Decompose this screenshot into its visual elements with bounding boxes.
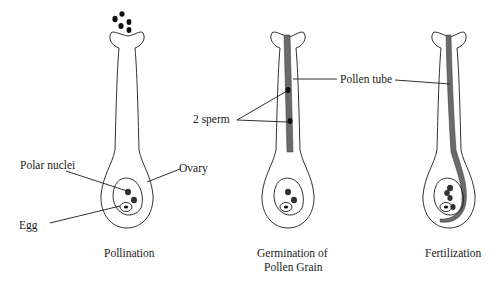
pollen-grain — [127, 27, 132, 33]
label-pollen-tube: Pollen tube — [340, 73, 392, 85]
pollen-grain — [112, 16, 117, 22]
sperm-cell — [286, 87, 291, 93]
caption-germination-line2: Pollen Grain — [264, 261, 323, 273]
egg-nucleus — [444, 205, 448, 208]
label-sperm: 2 sperm — [193, 113, 230, 126]
pollen-grain — [127, 19, 132, 25]
ovule-outline — [274, 178, 303, 215]
polar-nucleus — [125, 189, 131, 196]
leader-pollen-tube — [395, 80, 450, 84]
leader-ovary — [147, 169, 180, 182]
label-egg: Egg — [19, 219, 38, 232]
panel-pollination: Polar nuclei Ovary Egg Pollination — [19, 11, 208, 259]
pollen-grain — [119, 11, 124, 17]
polar-nucleus — [131, 197, 137, 204]
polar-nucleus — [444, 190, 450, 196]
leader-sperm-1 — [237, 91, 287, 120]
egg-nucleus — [124, 205, 128, 208]
ovule-outline — [113, 178, 142, 215]
egg-nucleus — [284, 205, 288, 208]
polar-nucleus — [285, 189, 291, 196]
caption-pollination: Pollination — [104, 247, 155, 259]
caption-germination-line1: Germination of — [257, 247, 328, 259]
sperm-cell — [288, 118, 293, 124]
sperm-nucleus — [447, 195, 452, 201]
panel-germination: 2 sperm Pollen tube Germination of Polle… — [193, 32, 392, 273]
label-polar-nuclei: Polar nuclei — [20, 159, 75, 171]
leader-sperm-2 — [237, 120, 288, 122]
pollen-tube — [284, 35, 293, 152]
label-ovary: Ovary — [179, 162, 208, 175]
caption-fertilization: Fertilization — [425, 247, 481, 259]
pollination-diagram: Polar nuclei Ovary Egg Pollination 2 spe… — [0, 0, 501, 286]
pistil-outline — [101, 32, 153, 228]
pollen-grain — [118, 23, 123, 29]
polar-nucleus — [291, 197, 297, 204]
panel-fertilization: Pollen tube Fertilization — [395, 32, 481, 259]
pollen-grains — [112, 11, 131, 33]
